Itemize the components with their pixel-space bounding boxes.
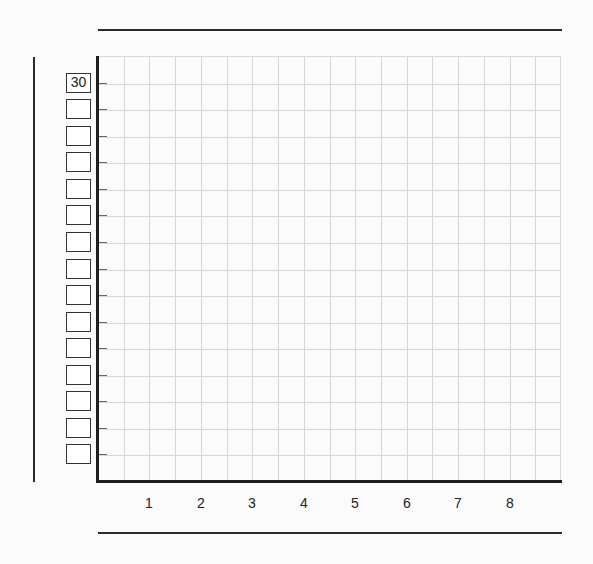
x-tick-label: 6 [397,495,417,511]
grid-line-horizontal [98,349,560,350]
grid-line-horizontal [98,323,560,324]
y-label-box[interactable] [66,126,91,146]
x-tick-label: 8 [500,495,520,511]
x-tick-label: 4 [294,495,314,511]
y-label-box[interactable] [66,312,91,332]
x-tick-label: 5 [345,495,365,511]
y-tick [99,401,107,402]
y-label-box[interactable] [66,418,91,438]
x-axis [96,480,562,483]
y-label-box[interactable] [66,232,91,252]
y-label-box[interactable] [66,259,91,279]
grid-line-horizontal [98,110,560,111]
y-tick [99,428,107,429]
y-tick [99,454,107,455]
grid-line-horizontal [98,216,560,217]
top-rule [98,29,562,31]
grid-line-horizontal [98,84,560,85]
left-margin-line [33,57,35,482]
grid-line-horizontal [98,243,560,244]
grid-line-horizontal [98,270,560,271]
y-label-box[interactable] [66,365,91,385]
y-label-box[interactable] [66,179,91,199]
grid-line-horizontal [98,402,560,403]
y-tick [99,269,107,270]
y-tick [99,136,107,137]
y-tick [99,348,107,349]
x-tick-label: 1 [139,495,159,511]
grid-line-horizontal [98,190,560,191]
x-tick-label: 2 [191,495,211,511]
y-tick [99,109,107,110]
bottom-rule [98,532,562,534]
grid-line-horizontal [98,163,560,164]
y-label-box[interactable] [66,444,91,464]
grid-line-horizontal [98,455,560,456]
grid-line-horizontal [98,376,560,377]
x-tick-label: 3 [242,495,262,511]
y-tick [99,242,107,243]
y-tick [99,83,107,84]
y-tick [99,295,107,296]
y-label-box[interactable] [66,285,91,305]
grid-line-horizontal [98,137,560,138]
y-label-box[interactable]: 30 [66,73,91,93]
y-tick [99,322,107,323]
y-label-box[interactable] [66,99,91,119]
y-label-box[interactable] [66,391,91,411]
y-tick [99,215,107,216]
x-tick-label: 7 [448,495,468,511]
y-label-box[interactable] [66,152,91,172]
y-tick [99,375,107,376]
chart-grid [98,56,561,481]
y-tick [99,162,107,163]
grid-line-horizontal [98,429,560,430]
y-tick [99,189,107,190]
y-label-box[interactable] [66,205,91,225]
y-label-box[interactable] [66,338,91,358]
grid-line-horizontal [98,296,560,297]
